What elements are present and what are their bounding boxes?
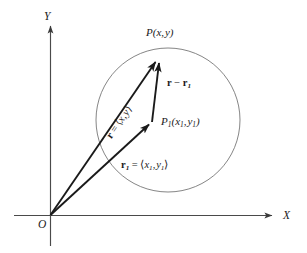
vector-diagram-figure: Y X O P(x, y) P1(x1, y1) r − r1 r1 = ⟨x1… (0, 0, 307, 253)
point-P-label: P(x, y) (146, 27, 174, 38)
minus-sign: − (174, 77, 180, 88)
point-P1-coords: (x1, y1) (171, 115, 199, 127)
vector-r-arrow (51, 62, 156, 215)
vector-r-minus-r1-label: r − r1 (167, 78, 191, 89)
origin-label: O (38, 219, 47, 231)
point-P1-name: P1 (161, 115, 171, 127)
x-axis-label: X (283, 210, 290, 222)
point-P1-label: P1(x1, y1) (161, 116, 200, 127)
y-axis-label: Y (44, 11, 51, 23)
point-P-name: P (146, 26, 153, 38)
vector-r-symbol: r (167, 77, 172, 88)
component-x1: x1 (144, 159, 152, 170)
vector-r1-label: r1 = ⟨x1, y1⟩ (121, 160, 168, 171)
point-P-coords: (x, y) (153, 26, 174, 38)
equals-sign: = (132, 159, 138, 170)
vector-r1-symbol: r1 (183, 77, 191, 88)
vector-r1-symbol: r1 (121, 159, 129, 170)
vector-r-minus-r1-arrow (152, 63, 159, 122)
angle-bracket-close: ⟩ (164, 159, 168, 170)
